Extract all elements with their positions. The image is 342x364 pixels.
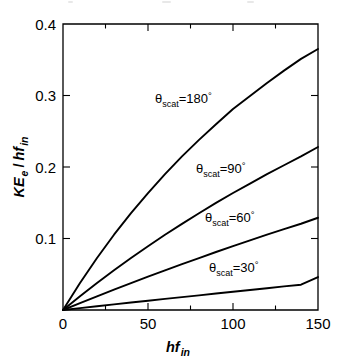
x-tick-label-100: 100 bbox=[220, 315, 245, 332]
annotation-180-equals: = bbox=[179, 91, 187, 106]
annotation-180-theta: θ bbox=[155, 91, 162, 106]
annotation-60-theta: θ bbox=[205, 210, 212, 225]
curve-annotations: θscat=180° θscat=90° θscat=60° θscat=30° bbox=[155, 90, 259, 278]
annotation-30-theta: θ bbox=[209, 260, 216, 275]
y-axis-title: KEe/hfin bbox=[11, 136, 30, 197]
data-curves bbox=[63, 49, 318, 310]
annotation-30-equals: = bbox=[233, 260, 241, 275]
y-axis-title-den-sub: in bbox=[18, 136, 30, 145]
x-tick-label-0: 0 bbox=[59, 315, 67, 332]
y-tick-label-0.1: 0.1 bbox=[35, 230, 56, 247]
page-scan-artifact bbox=[0, 0, 342, 8]
x-axis-title-sub: in bbox=[181, 346, 190, 358]
x-tick-label-150: 150 bbox=[305, 315, 330, 332]
annotation-theta-90: θscat=90° bbox=[196, 160, 246, 179]
svg-text:hfin: hfin bbox=[166, 339, 190, 358]
y-axis-title-slash: / bbox=[11, 164, 27, 168]
y-tick-labels: 0.4 0.3 0.2 0.1 bbox=[35, 16, 56, 247]
x-axis-title: hfin bbox=[166, 339, 190, 358]
y-axis-title-num-sub: e bbox=[18, 170, 30, 176]
y-tick-label-0.2: 0.2 bbox=[35, 159, 56, 176]
x-tick-labels: 0 50 100 150 bbox=[59, 315, 331, 332]
curve-theta-90 bbox=[63, 147, 318, 310]
curve-theta-30 bbox=[63, 277, 318, 310]
y-axis-title-den-main: hf bbox=[11, 145, 27, 161]
compton-energy-chart: 0.4 0.3 0.2 0.1 0 50 100 150 hfin KEe/hf… bbox=[0, 0, 342, 364]
y-tick-label-0.3: 0.3 bbox=[35, 87, 56, 104]
annotation-180-sub: scat bbox=[162, 99, 179, 109]
annotation-90-theta: θ bbox=[196, 161, 203, 176]
annotation-theta-180: θscat=180° bbox=[155, 90, 212, 109]
annotation-30-sub: scat bbox=[216, 268, 233, 278]
annotation-60-value: 60 bbox=[236, 210, 250, 225]
annotation-180-degree: ° bbox=[208, 90, 212, 101]
annotation-60-sub: scat bbox=[212, 218, 229, 228]
annotation-90-degree: ° bbox=[242, 160, 246, 171]
chart-canvas: 0.4 0.3 0.2 0.1 0 50 100 150 hfin KEe/hf… bbox=[0, 0, 342, 364]
annotation-30-value: 30 bbox=[240, 260, 254, 275]
x-axis-title-main: hf bbox=[166, 339, 182, 355]
annotation-90-sub: scat bbox=[203, 169, 220, 179]
curve-theta-180 bbox=[63, 49, 318, 310]
y-axis-title-num-main: KE bbox=[11, 176, 27, 197]
y-tick-label-0.4: 0.4 bbox=[35, 16, 56, 33]
annotation-60-degree: ° bbox=[251, 209, 255, 220]
annotation-90-equals: = bbox=[220, 161, 228, 176]
annotation-180-value: 180 bbox=[186, 91, 208, 106]
x-tick-label-50: 50 bbox=[140, 315, 157, 332]
svg-text:KEe/hfin: KEe/hfin bbox=[11, 136, 30, 197]
annotation-theta-30: θscat=30° bbox=[209, 259, 259, 278]
annotation-theta-60: θscat=60° bbox=[205, 209, 255, 228]
annotation-90-value: 90 bbox=[227, 161, 241, 176]
annotation-60-equals: = bbox=[229, 210, 237, 225]
annotation-30-degree: ° bbox=[255, 259, 259, 270]
